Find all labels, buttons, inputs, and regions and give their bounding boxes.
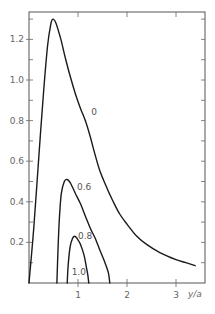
- curve-label: 1.0: [72, 267, 87, 277]
- curves: [29, 19, 195, 283]
- curve-label: 0.8: [78, 231, 93, 241]
- curve-label: 0.6: [77, 182, 92, 192]
- x-tick-label: 1: [75, 290, 81, 300]
- contour-chart: 0.20.40.60.81.01.2123 00.60.81.0 y/a: [0, 0, 215, 314]
- curve-0: [29, 19, 195, 283]
- y-tick-label: 1.0: [10, 75, 25, 85]
- plot-frame: [29, 12, 205, 283]
- x-tick-label: 2: [124, 290, 130, 300]
- curve-label: 0: [91, 107, 97, 117]
- axis-ticks: [26, 12, 205, 287]
- y-tick-label: 0.4: [10, 197, 25, 207]
- axis-tick-labels: 0.20.40.60.81.01.2123: [10, 34, 179, 300]
- y-tick-label: 1.2: [10, 34, 24, 44]
- x-axis-label: y/a: [187, 289, 202, 299]
- y-tick-label: 0.2: [10, 237, 24, 247]
- y-tick-label: 0.8: [10, 116, 25, 126]
- x-tick-label: 3: [173, 290, 179, 300]
- curve-labels: 00.60.81.0: [72, 107, 98, 277]
- y-tick-label: 0.6: [10, 156, 25, 166]
